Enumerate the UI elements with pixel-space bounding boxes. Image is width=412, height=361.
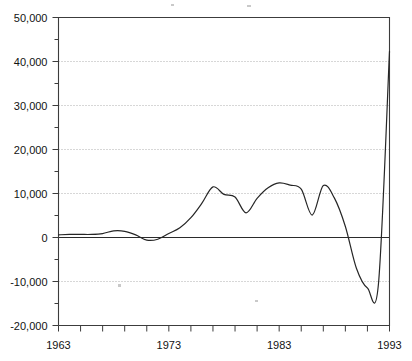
line-chart: -20,000-10,000010,00020,00030,00040,0005… [0, 0, 412, 361]
grid-lines [59, 62, 390, 282]
x-tick-label: 1993 [377, 339, 401, 351]
x-tick-label: 1973 [157, 339, 181, 351]
y-tick-label: 40,000 [14, 56, 48, 68]
chart-container: -20,000-10,000010,00020,00030,00040,0005… [0, 0, 412, 361]
y-tick-label: 30,000 [14, 100, 48, 112]
y-tick-label: 0 [41, 232, 47, 244]
y-minor-ticks [55, 40, 59, 304]
y-tick-labels: -20,000-10,000010,00020,00030,00040,0005… [10, 12, 47, 332]
data-line-series-1 [59, 51, 390, 303]
y-tick-label: 50,000 [14, 12, 48, 24]
y-tick-label: 10,000 [14, 188, 48, 200]
x-tick-labels: 1963197319831993 [46, 339, 401, 351]
y-tick-label: -10,000 [10, 276, 47, 288]
x-tick-label: 1963 [46, 339, 70, 351]
scan-specks [118, 4, 258, 302]
y-tick-label: -20,000 [10, 320, 47, 332]
y-tick-label: 20,000 [14, 144, 48, 156]
x-tick-label: 1983 [267, 339, 291, 351]
x-ticks [59, 326, 390, 332]
plot-frame [59, 18, 390, 326]
